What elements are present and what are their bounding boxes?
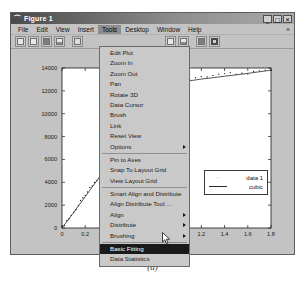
menu-item-link[interactable]: Link: [100, 121, 189, 131]
submenu-arrow-icon: [183, 223, 186, 227]
open-file-icon[interactable]: [28, 36, 39, 47]
data-point: [92, 185, 93, 186]
y-tick-label: 2000: [45, 202, 57, 208]
data-point: [87, 191, 88, 192]
data-point: [85, 195, 86, 196]
data-point: [253, 71, 254, 72]
menu-item-rotate-3d[interactable]: Rotate 3D: [100, 90, 189, 100]
menu-item-snap-to-layout-grid[interactable]: Snap To Layout Grid: [100, 165, 189, 175]
data-point: [64, 225, 65, 226]
data-point: [89, 187, 90, 188]
submenu-arrow-icon: [183, 213, 186, 217]
x-tick-label: 0: [60, 231, 63, 237]
data-point: [236, 73, 237, 74]
data-point: [68, 218, 69, 219]
insert-legend-icon[interactable]: [196, 36, 207, 47]
menu-item-label: Zoom In: [110, 59, 133, 66]
data-point: [71, 215, 72, 216]
y-tick-label: 6000: [45, 156, 57, 162]
data-point: [195, 77, 196, 78]
menu-item-data-statistics[interactable]: Data Statistics: [100, 254, 189, 264]
data-point: [96, 180, 97, 181]
data-point: [78, 205, 79, 206]
y-tick-label: 8000: [45, 134, 57, 140]
menu-item-reset-view[interactable]: Reset View: [100, 131, 189, 141]
menu-item-brushing[interactable]: Brushing: [100, 231, 189, 241]
menu-help[interactable]: Help: [184, 25, 205, 34]
data-point: [230, 72, 231, 73]
new-figure-icon[interactable]: [15, 36, 26, 47]
tools-dropdown-menu[interactable]: Edit PlotZoom InZoom OutPanRotate 3DData…: [99, 46, 190, 267]
legend-marker-data-1: ·: [208, 173, 228, 182]
menu-item-view-layout-grid[interactable]: View Layout Grid: [100, 176, 189, 186]
menu-item-label: Align Distribute Tool ...: [110, 200, 171, 207]
data-point: [212, 75, 213, 76]
menu-item-label: Brushing: [110, 232, 134, 239]
menu-item-label: View Layout Grid: [110, 177, 157, 184]
menu-item-label: Edit Plot: [110, 49, 133, 56]
menu-item-label: Smart Align and Distribute: [110, 190, 182, 197]
data-point: [75, 209, 76, 210]
menu-item-brush[interactable]: Brush: [100, 110, 189, 120]
legend[interactable]: · data 1 cubic: [204, 170, 268, 195]
x-tick-label: 0.2: [81, 231, 89, 237]
legend-entry-cubic: cubic: [208, 182, 264, 191]
window-controls: _ □ ✕: [263, 15, 292, 23]
x-tick-label: 1.6: [244, 231, 252, 237]
data-point: [247, 73, 248, 74]
legend-line-cubic: [208, 182, 228, 191]
menu-item-zoom-out[interactable]: Zoom Out: [100, 69, 189, 79]
menu-file[interactable]: File: [14, 25, 32, 34]
maximize-button[interactable]: □: [273, 15, 282, 23]
menu-item-label: Distribute: [110, 221, 136, 228]
window-title: Figure 1: [24, 15, 53, 22]
menu-item-distribute[interactable]: Distribute: [100, 220, 189, 230]
menu-item-edit-plot[interactable]: Edit Plot: [100, 48, 189, 58]
x-tick-label: 1.4: [221, 231, 229, 237]
mouse-cursor-icon: [162, 232, 171, 245]
menu-item-label: Reset View: [110, 132, 141, 139]
menu-overflow-icon[interactable]: »: [286, 26, 290, 33]
menu-edit[interactable]: Edit: [32, 25, 51, 34]
menu-item-pin-to-axes[interactable]: Pin to Axes: [100, 155, 189, 165]
menu-item-label: Brush: [110, 111, 126, 118]
menu-item-label: Data Statistics: [110, 255, 150, 262]
menu-separator: [102, 242, 187, 243]
menu-item-label: Link: [110, 122, 121, 129]
data-point: [94, 182, 95, 183]
y-tick-label: 4000: [45, 179, 57, 185]
menu-view[interactable]: View: [52, 25, 74, 34]
menu-item-options[interactable]: Options: [100, 142, 189, 152]
x-tick-label: 1.8: [267, 231, 275, 237]
edit-plot-pointer-icon[interactable]: [72, 36, 83, 47]
minimize-button[interactable]: _: [263, 15, 272, 23]
menu-item-align-distribute-tool[interactable]: Align Distribute Tool ...: [100, 199, 189, 209]
menu-item-label: Align: [110, 211, 124, 218]
figure-window: ⏜ Figure 1 _ □ ✕ File Edit View Insert T…: [10, 12, 295, 255]
menu-item-data-cursor[interactable]: Data Cursor: [100, 100, 189, 110]
data-point: [218, 74, 219, 75]
legend-label-cubic: cubic: [228, 184, 264, 190]
menu-desktop[interactable]: Desktop: [121, 25, 153, 34]
data-point: [61, 226, 62, 227]
print-figure-icon[interactable]: [54, 36, 65, 47]
menu-item-pan[interactable]: Pan: [100, 79, 189, 89]
menu-item-align[interactable]: Align: [100, 210, 189, 220]
menu-tools[interactable]: Tools: [98, 25, 121, 34]
menu-item-label: Snap To Layout Grid: [110, 166, 166, 173]
menu-item-basic-fitting[interactable]: Basic Fitting: [100, 244, 189, 254]
title-bar[interactable]: ⏜ Figure 1 _ □ ✕: [11, 13, 294, 24]
data-point: [224, 73, 225, 74]
close-button[interactable]: ✕: [283, 15, 292, 23]
x-tick-label: 1.2: [197, 231, 205, 237]
menu-item-label: Options: [110, 143, 131, 150]
hide-plot-tools-icon[interactable]: [209, 36, 220, 47]
menu-window[interactable]: Window: [153, 25, 184, 34]
legend-entry-data-1: · data 1: [208, 173, 264, 182]
y-tick-label: 0: [54, 225, 57, 231]
save-figure-icon[interactable]: [41, 36, 52, 47]
menu-item-smart-align-and-distribute[interactable]: Smart Align and Distribute: [100, 189, 189, 199]
menu-item-label: Data Cursor: [110, 101, 143, 108]
menu-insert[interactable]: Insert: [74, 25, 98, 34]
menu-item-zoom-in[interactable]: Zoom In: [100, 58, 189, 68]
